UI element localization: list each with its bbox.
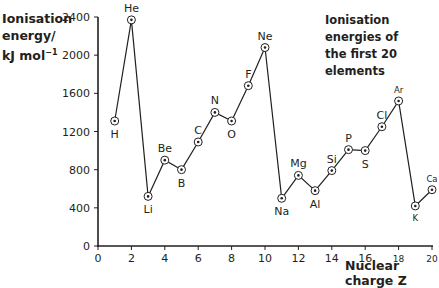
data-point-dot [264,46,267,49]
element-label-p: P [345,132,352,145]
data-point-dot [247,84,250,87]
x-tick-label: 18 [393,254,405,264]
element-label-li: Li [144,203,153,216]
element-label-o: O [227,128,236,141]
data-point-dot [347,148,350,151]
y-tick-label: 1600 [62,87,90,100]
data-point-dot [381,125,384,128]
element-label-al: Al [310,198,321,211]
data-point-dot [397,100,400,103]
element-label-cl: Cl [377,109,388,122]
element-label-mg: Mg [290,157,306,170]
element-label-h: H [111,128,119,141]
y-tick-label: 2000 [62,49,90,62]
x-tick-label: 16 [358,252,372,265]
element-label-ne: Ne [258,30,273,43]
x-tick-label: 4 [161,252,168,265]
element-label-s: S [362,158,369,171]
element-label-be: Be [158,142,173,155]
data-point-dot [431,188,434,191]
data-point-dot [297,174,300,177]
data-point-dot [314,189,317,192]
data-point-dot [197,141,200,144]
data-point-dot [364,149,367,152]
element-label-ca: Ca [426,174,437,184]
element-label-n: N [211,94,219,107]
data-point-dot [414,205,417,208]
data-point-dot [280,197,283,200]
data-point-dot [214,111,217,114]
y-tick-label: 0 [83,240,90,253]
y-tick-label: 400 [69,202,90,215]
data-point-dot [164,159,167,162]
x-tick-label: 20 [426,254,438,264]
element-label-f: F [245,68,251,81]
x-tick-label: 6 [195,252,202,265]
element-label-c: C [194,124,202,137]
element-label-he: He [124,2,139,15]
y-tick-label: 1200 [62,126,90,139]
x-tick-label: 12 [291,252,305,265]
data-point-dot [180,168,183,171]
x-tick-label: 10 [258,252,272,265]
element-label-ar: Ar [394,85,404,95]
x-tick-label: 8 [228,252,235,265]
data-point-dot [331,169,334,172]
element-label-na: Na [274,205,289,218]
x-tick-label: 2 [128,252,135,265]
y-tick-label: 800 [69,164,90,177]
data-point-dot [130,19,133,22]
element-label-si: Si [327,153,337,166]
data-point-dot [147,195,150,198]
data-point-dot [113,120,116,123]
y-tick-label: 2400 [62,11,90,24]
element-label-k: K [413,213,419,223]
data-point-dot [230,120,233,123]
x-tick-label: 14 [325,252,339,265]
x-tick-label: 0 [95,252,102,265]
element-label-b: B [178,177,186,190]
